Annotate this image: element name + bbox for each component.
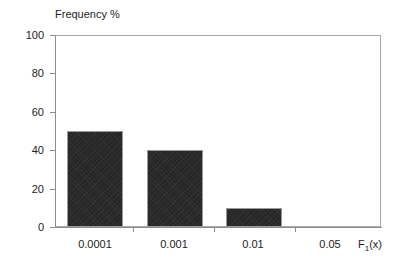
y-tick-0 [50,227,56,228]
y-axis-title: Frequency % [55,8,120,21]
y-axis-label-60: 60 [10,107,44,118]
x-axis-title-tail: (x) [369,238,382,250]
y-tick-100 [50,35,56,36]
x-axis-label-0: 0.0001 [65,238,125,250]
x-axis-label-1: 0.001 [146,238,202,250]
bar-0.001 [147,150,203,227]
y-tick-20 [50,189,56,190]
x-tick-2 [214,227,215,232]
frequency-bar-chart: Frequency % 100 80 60 40 20 0 0.0001 0.0… [0,0,405,266]
y-tick-60 [50,112,56,113]
x-axis-title-main: F [358,238,365,250]
y-axis-line [55,35,56,228]
x-axis-label-2: 0.01 [227,238,279,250]
bar-0.01 [226,208,282,227]
y-axis-label-100: 100 [10,30,44,41]
x-tick-1 [133,227,134,232]
x-axis-label-3: 0.05 [306,238,354,250]
x-tick-3 [295,227,296,232]
y-tick-80 [50,73,56,74]
y-axis-label-0: 0 [10,222,44,233]
y-axis-label-40: 40 [10,145,44,156]
y-tick-40 [50,150,56,151]
x-axis-line [55,227,382,228]
y-axis-label-80: 80 [10,68,44,79]
y-axis-label-20: 20 [10,184,44,195]
x-axis-title: F1(x) [358,238,382,255]
bar-0.0001 [67,131,123,227]
